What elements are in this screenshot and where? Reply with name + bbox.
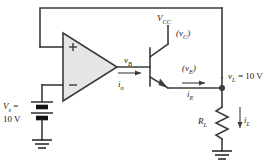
current-arrow-il bbox=[238, 107, 243, 128]
ground-symbol-source bbox=[32, 140, 52, 148]
label-source-name: Vs = bbox=[3, 102, 18, 113]
label-io: io bbox=[118, 80, 124, 91]
npn-transistor bbox=[150, 26, 168, 88]
op-amp bbox=[40, 33, 150, 101]
label-ve: (vE) bbox=[182, 64, 196, 75]
current-arrow-io bbox=[118, 71, 141, 76]
label-vcc: VCC bbox=[157, 14, 171, 25]
label-load-current: iL bbox=[244, 116, 250, 127]
load-resistor-zigzag bbox=[216, 107, 228, 139]
label-output-voltage: vL = 10 V bbox=[228, 72, 263, 83]
label-ie: iE bbox=[187, 90, 194, 101]
load-resistor-branch bbox=[212, 88, 232, 159]
circuit-diagram: VCC (vC) vB io (vE) iE vL = 10 V RL iL V… bbox=[0, 0, 278, 164]
current-arrow-ie bbox=[182, 81, 205, 86]
label-vc: (vC) bbox=[176, 29, 190, 40]
ground-symbol-load bbox=[212, 151, 232, 159]
reference-source-branch bbox=[31, 85, 53, 148]
transistor-emitter-arrowhead bbox=[159, 79, 169, 89]
transistor-collector-lead bbox=[150, 44, 168, 57]
label-source-value: 10 V bbox=[3, 115, 21, 124]
label-vb: vB bbox=[124, 56, 132, 67]
label-load-resistor: RL bbox=[198, 117, 207, 128]
